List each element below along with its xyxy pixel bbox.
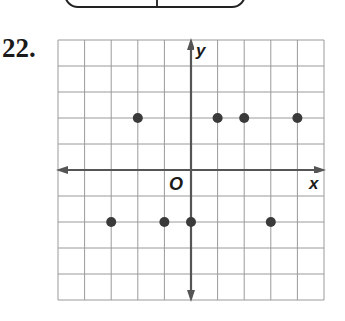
data-point bbox=[239, 113, 249, 123]
data-point bbox=[106, 217, 116, 227]
data-point bbox=[266, 217, 276, 227]
origin-label: O bbox=[169, 174, 183, 194]
y-axis-label: y bbox=[195, 41, 207, 60]
data-point bbox=[133, 113, 143, 123]
coordinate-plane: yxO bbox=[0, 0, 345, 321]
x-axis-label: x bbox=[308, 174, 320, 193]
data-point bbox=[292, 113, 302, 123]
data-point bbox=[159, 217, 169, 227]
data-point bbox=[213, 113, 223, 123]
data-point bbox=[186, 217, 196, 227]
